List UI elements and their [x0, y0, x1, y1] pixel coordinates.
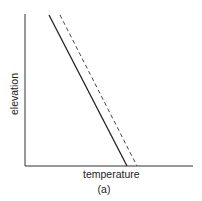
y-axis-label: elevation	[8, 72, 20, 116]
solid-line	[49, 15, 127, 166]
dashed-line	[60, 15, 137, 166]
figure-caption: (a)	[98, 183, 111, 195]
x-axis-label: temperature	[83, 168, 140, 180]
